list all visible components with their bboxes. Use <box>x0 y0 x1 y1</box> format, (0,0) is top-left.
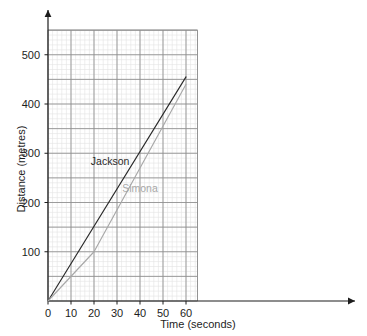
y-axis-title: Distance (metres) <box>15 104 27 234</box>
distance-time-chart: 0102030405060100200300400500 JacksonSimo… <box>0 0 367 336</box>
axis-ticks <box>45 55 187 305</box>
x-tick-label: 0 <box>45 307 51 319</box>
series-label-simona: Simona <box>122 182 158 194</box>
chart-canvas: 0102030405060100200300400500 JacksonSimo… <box>0 0 367 336</box>
x-axis-arrow-icon <box>348 298 355 305</box>
x-tick-label: 20 <box>88 307 100 319</box>
x-axis-title: Time (seconds) <box>108 318 288 330</box>
y-axis-arrow-icon <box>45 10 52 17</box>
y-tick-label: 100 <box>22 246 40 258</box>
x-tick-label: 10 <box>65 307 77 319</box>
y-tick-label: 500 <box>22 49 40 61</box>
series-label-jackson: Jackson <box>91 155 130 167</box>
